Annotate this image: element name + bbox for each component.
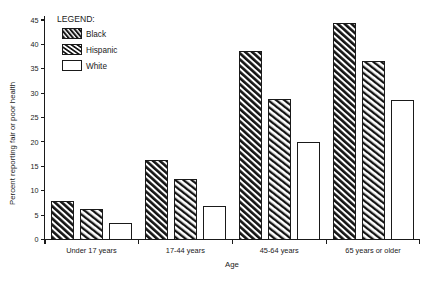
y-axis-tick-labels: 051015202530354045 — [31, 16, 39, 245]
bar-group — [51, 202, 131, 240]
y-tick-label: 15 — [31, 162, 39, 171]
bar — [203, 206, 225, 239]
y-axis: 051015202530354045 — [31, 16, 45, 245]
legend-entry: Hispanic — [62, 44, 117, 55]
y-tick-label: 10 — [31, 186, 39, 195]
legend-swatch — [62, 44, 81, 55]
y-tick-label: 30 — [31, 89, 39, 98]
bar — [109, 223, 131, 239]
legend: LEGEND: BlackHispanicWhite — [57, 14, 117, 71]
bar — [145, 161, 167, 240]
bar-chart: 051015202530354045 Under 17 years17-44 y… — [0, 0, 427, 282]
legend-entry: Black — [62, 28, 107, 39]
chart-canvas: 051015202530354045 Under 17 years17-44 y… — [0, 0, 427, 282]
bar-group — [239, 51, 319, 239]
x-category-label: 65 years or older — [345, 246, 401, 255]
legend-entry-label: Hispanic — [86, 46, 117, 55]
bar — [391, 101, 413, 240]
y-axis-ticks — [41, 20, 45, 240]
legend-entry-label: Black — [86, 30, 107, 39]
bar-group — [145, 161, 225, 240]
legend-swatch — [62, 60, 81, 71]
y-tick-label: 0 — [35, 235, 39, 244]
x-category-label: 17-44 years — [166, 246, 205, 255]
legend-title: LEGEND: — [57, 14, 95, 24]
bar — [51, 202, 73, 240]
legend-entry-label: White — [86, 62, 107, 71]
y-axis-title-text: Percent reporting fair or poor health — [8, 82, 17, 205]
bar — [174, 180, 196, 240]
y-tick-label: 5 — [35, 211, 39, 220]
legend-entries: BlackHispanicWhite — [62, 28, 117, 71]
y-tick-label: 35 — [31, 64, 39, 73]
bar — [297, 143, 319, 240]
x-axis: Under 17 years17-44 years45-64 years65 y… — [45, 240, 421, 256]
x-axis-title-text: Age — [225, 260, 239, 269]
bars-layer — [51, 24, 413, 240]
bar — [80, 210, 102, 240]
bar — [333, 24, 355, 240]
legend-entry: White — [62, 60, 107, 71]
bar — [268, 100, 290, 240]
x-axis-ticks — [45, 240, 420, 244]
x-category-label: 45-64 years — [260, 246, 299, 255]
legend-swatch — [62, 28, 81, 39]
x-category-label: Under 17 years — [66, 246, 117, 255]
y-axis-title: Percent reporting fair or poor health — [8, 82, 17, 205]
bar — [362, 61, 384, 239]
x-axis-title: Age — [225, 260, 239, 269]
x-axis-category-labels: Under 17 years17-44 years45-64 years65 y… — [66, 246, 401, 255]
bar-group — [333, 24, 413, 240]
y-tick-label: 40 — [31, 40, 39, 49]
y-tick-label: 20 — [31, 138, 39, 147]
y-tick-label: 45 — [31, 16, 39, 25]
bar — [239, 51, 261, 239]
y-tick-label: 25 — [31, 113, 39, 122]
